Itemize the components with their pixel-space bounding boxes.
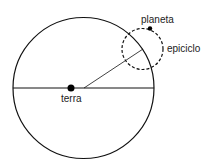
planet-label: planeta [141, 14, 174, 25]
earth-label: terra [61, 93, 82, 104]
epicycle-label: epiciclo [167, 43, 201, 54]
epicycle-diagram: planeta epiciclo terra [0, 0, 208, 167]
planet-dot [148, 26, 152, 30]
radius-line [84, 49, 143, 88]
earth-dot [68, 85, 75, 92]
